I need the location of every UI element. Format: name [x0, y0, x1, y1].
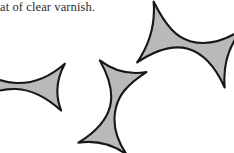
figure-illustration	[0, 0, 234, 153]
shape-right	[136, 2, 234, 88]
page-canvas: at of clear varnish.	[0, 0, 234, 153]
shape-left-path	[0, 59, 65, 112]
shape-middle-path	[78, 60, 147, 153]
shape-middle	[78, 60, 147, 153]
shape-right-path	[136, 2, 234, 88]
shape-left	[0, 59, 65, 112]
